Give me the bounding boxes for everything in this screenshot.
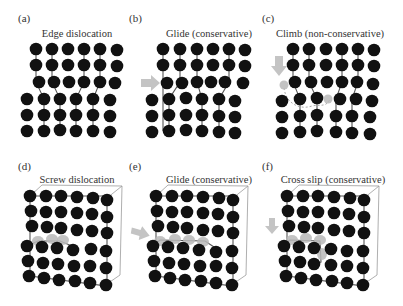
panel-a: (a) Edge dislocation — [18, 12, 123, 138]
panel-e: (e) Glide (conservative) — [129, 160, 253, 291]
edge-lattice — [21, 43, 124, 139]
climb-arrow-icon — [271, 56, 287, 76]
atom-row — [30, 43, 124, 90]
panel-e-title: Glide (conservative) — [166, 174, 253, 186]
panel-c-title: Climb (non-conservative) — [276, 28, 385, 40]
panel-b-title: Glide (conservative) — [166, 28, 253, 40]
panel-c-letter: (c) — [262, 12, 275, 25]
vacancy-atom — [280, 81, 289, 90]
glide-arrow-icon — [141, 75, 160, 91]
cross-slip-cube — [278, 185, 379, 291]
vacancy-atom — [324, 95, 333, 104]
panel-d-title: Screw dislocation — [40, 174, 116, 185]
glide-screw-cube — [147, 185, 248, 291]
panel-d-letter: (d) — [18, 160, 31, 173]
panel-f: (f) Cross slip (conservative) — [262, 160, 386, 291]
glide-arrow-icon — [130, 225, 151, 242]
panel-f-title: Cross slip (conservative) — [281, 174, 386, 186]
panel-c: (c) Climb (non-conservative) — [262, 12, 385, 140]
glide-lattice — [146, 43, 252, 140]
panel-e-letter: (e) — [129, 160, 142, 173]
cross-slip-arrow-icon — [265, 218, 279, 234]
dislocation-figure: (a) Edge dislocation (b) Glide (conserva… — [0, 0, 403, 306]
climb-lattice — [276, 43, 381, 141]
panel-d: (d) Screw dislocation — [18, 160, 122, 291]
panel-b-letter: (b) — [129, 12, 142, 25]
panel-b: (b) Glide (conservative) — [129, 12, 253, 139]
atom-row — [21, 93, 117, 139]
panel-a-letter: (a) — [18, 12, 31, 25]
screw-cube — [21, 185, 122, 291]
panel-f-letter: (f) — [262, 160, 273, 173]
panel-a-title: Edge dislocation — [42, 28, 113, 39]
